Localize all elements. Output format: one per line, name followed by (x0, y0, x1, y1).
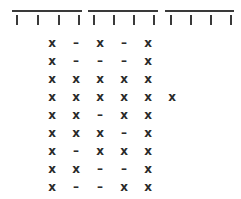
figure-canvas: x–x–xx–––xxxxxxxxxxxxxx–xxxxx–xx–xxxxx––… (0, 0, 241, 199)
grid-cell-present: x (93, 142, 107, 160)
grid-cell-absent: – (69, 178, 83, 196)
grid-cell-present: x (141, 142, 155, 160)
grid-cell-absent: – (117, 124, 131, 142)
grid-cell-absent: – (69, 34, 83, 52)
tick-mark (113, 15, 115, 25)
grid-cell-present: x (69, 124, 83, 142)
grid-cell-present: x (117, 106, 131, 124)
grid-cell-present: x (93, 70, 107, 88)
grid-cell-present: x (69, 88, 83, 106)
tick-mark (210, 15, 212, 25)
grid-cell-present: x (45, 52, 59, 70)
grid-cell-present: x (69, 106, 83, 124)
grid-cell-present: x (141, 160, 155, 178)
tick-mark-group (0, 0, 241, 26)
grid-cell-absent: – (69, 52, 83, 70)
grid-cell-present: x (93, 88, 107, 106)
grid-cell-present: x (141, 34, 155, 52)
grid-cell-present: x (45, 124, 59, 142)
grid-row: xxxxxx (0, 88, 241, 106)
grid-cell-present: x (117, 142, 131, 160)
grid-cell-present: x (141, 106, 155, 124)
grid-cell-present: x (45, 178, 59, 196)
grid-cell-present: x (45, 88, 59, 106)
grid-cell-present: x (117, 88, 131, 106)
grid-cell-present: x (45, 160, 59, 178)
grid-cell-present: x (69, 70, 83, 88)
tick-mark (230, 15, 232, 25)
grid-cell-present: x (69, 160, 83, 178)
tick-mark (93, 15, 95, 25)
grid-row: x–xxx (0, 142, 241, 160)
tick-mark (153, 15, 155, 25)
tick-mark (78, 15, 80, 25)
grid-cell-present: x (45, 106, 59, 124)
grid-cell-absent: – (93, 106, 107, 124)
grid-cell-present: x (141, 178, 155, 196)
grid-cell-absent: – (117, 52, 131, 70)
grid-cell-absent: – (117, 160, 131, 178)
grid-row: x–x–x (0, 34, 241, 52)
grid-cell-present: x (93, 34, 107, 52)
grid-cell-present: x (141, 52, 155, 70)
grid-cell-present: x (165, 88, 179, 106)
tick-mark (133, 15, 135, 25)
grid-cell-absent: – (69, 142, 83, 160)
tick-mark (58, 15, 60, 25)
grid-row: xx–xx (0, 106, 241, 124)
grid-cell-present: x (117, 178, 131, 196)
tick-mark (190, 15, 192, 25)
grid-cell-absent: – (117, 34, 131, 52)
grid-cell-present: x (45, 142, 59, 160)
grid-row: x–––x (0, 52, 241, 70)
grid-row: xxxxx (0, 70, 241, 88)
grid-row: x––xx (0, 178, 241, 196)
grid-cell-present: x (141, 88, 155, 106)
tick-mark (37, 15, 39, 25)
grid-row: xx––x (0, 160, 241, 178)
grid-cell-present: x (45, 34, 59, 52)
symbol-grid: x–x–xx–––xxxxxxxxxxxxxx–xxxxx–xx–xxxxx––… (0, 28, 241, 199)
tick-mark (170, 15, 172, 25)
grid-cell-absent: – (93, 178, 107, 196)
grid-cell-present: x (117, 70, 131, 88)
grid-cell-present: x (141, 124, 155, 142)
grid-cell-present: x (141, 70, 155, 88)
grid-cell-absent: – (93, 52, 107, 70)
grid-cell-present: x (45, 70, 59, 88)
grid-cell-absent: – (93, 160, 107, 178)
grid-row: xxx–x (0, 124, 241, 142)
grid-cell-present: x (93, 124, 107, 142)
tick-mark (16, 15, 18, 25)
